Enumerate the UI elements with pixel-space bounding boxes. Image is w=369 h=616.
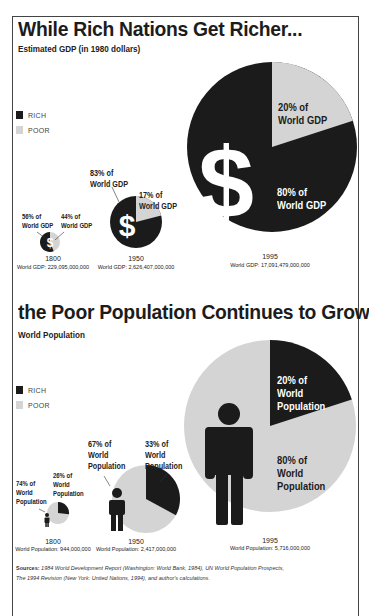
gdp-1950-value: World GDP: 2,626,407,000,000 — [66, 264, 206, 271]
gdp-1950-year: 1950 — [76, 255, 196, 263]
gdp-1950-rich-label: 83% of World GDP — [90, 168, 128, 190]
population-title: the Poor Population Continues to Grow — [18, 300, 369, 324]
population-pie-1950 — [104, 465, 180, 533]
gdp-1995-year: 1995 — [210, 253, 330, 261]
population-1995-rich-label: 20% of World Population — [277, 374, 325, 413]
population-subtitle: World Population — [18, 330, 85, 340]
legend-label: POOR — [28, 402, 50, 409]
gdp-1800-poor-label: 44% of World GDP — [61, 212, 92, 230]
population-1800-rich-label: 26% of World Population — [53, 471, 84, 498]
population-legend-rich: RICH — [16, 386, 46, 394]
gdp-pie-1800: $ — [37, 232, 64, 252]
legend-label: RICH — [28, 387, 46, 394]
population-1995-value: World Population: 5,716,000,000 — [200, 545, 340, 552]
sources-line-2: The 1994 Revision (New York: United Nati… — [16, 575, 210, 581]
population-pie-1995 — [184, 340, 356, 525]
population-1995-year: 1995 — [210, 537, 330, 545]
population-1950-poor-label: 67% of World Population — [88, 439, 125, 472]
gdp-1995-poor-label: 20% of World GDP — [278, 101, 327, 127]
dollar-sign-icon: $ — [198, 127, 254, 239]
gdp-1950-poor-label: 17% of World GDP — [139, 190, 177, 212]
gdp-pie-1995: $ — [187, 62, 357, 239]
population-1800-poor-label: 74% of World Population — [16, 479, 47, 506]
population-legend-poor: POOR — [16, 401, 50, 409]
sources-line-1: 1984 World Development Report (Washingto… — [41, 565, 284, 571]
rich-swatch — [16, 386, 23, 394]
population-1950-year: 1950 — [76, 538, 196, 546]
sources-label: Sources: — [16, 565, 40, 571]
person-icon — [45, 513, 50, 527]
gdp-1995-value: World GDP: 17,091,479,000,000 — [200, 262, 340, 269]
dollar-sign-icon: $ — [119, 209, 136, 242]
population-1995-poor-label: 80% of World Population — [277, 454, 325, 493]
poor-swatch — [16, 401, 23, 409]
gdp-1800-rich-label: 56% of World GDP — [22, 212, 53, 230]
dollar-sign-icon: $ — [47, 236, 54, 250]
population-1950-value: World Population: 2,417,000,000 — [66, 546, 206, 553]
sources-note: Sources: 1984 World Development Report (… — [16, 563, 284, 583]
population-1950-rich-label: 33% of World Population — [145, 439, 182, 472]
gdp-1995-rich-label: 80% of World GDP — [277, 186, 326, 212]
